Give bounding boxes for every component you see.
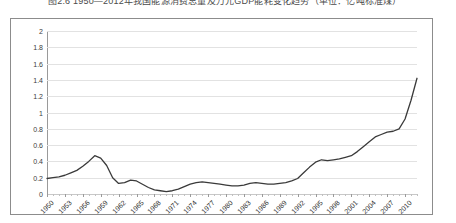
x-tick-minor bbox=[113, 194, 114, 196]
x-tick-minor bbox=[250, 194, 251, 196]
x-tick-label: 2001 bbox=[343, 199, 359, 215]
x-tick-minor bbox=[345, 194, 346, 196]
x-tick-minor bbox=[196, 194, 197, 196]
x-tick-mark bbox=[137, 194, 138, 197]
x-tick-minor bbox=[232, 194, 233, 196]
x-tick-mark bbox=[298, 194, 299, 197]
x-tick-mark bbox=[405, 194, 406, 197]
y-tick-label: 0.6 bbox=[33, 142, 43, 149]
figure-caption-strip: 图2.6 1950—2012年我国能源消费总量及万元GDP能耗变化趋势（单位：亿… bbox=[0, 0, 456, 11]
x-tick-mark bbox=[65, 194, 66, 197]
x-tick-minor bbox=[417, 194, 418, 196]
x-tick-mark bbox=[47, 194, 48, 197]
x-tick-minor bbox=[322, 194, 323, 196]
x-tick-minor bbox=[304, 194, 305, 196]
x-tick-label: 1956 bbox=[75, 199, 91, 215]
x-tick-minor bbox=[381, 194, 382, 196]
x-tick-minor bbox=[339, 194, 340, 196]
x-tick-minor bbox=[256, 194, 257, 196]
x-tick-mark bbox=[208, 194, 209, 197]
x-tick-minor bbox=[393, 194, 394, 196]
y-tick-label: 0.4 bbox=[33, 158, 43, 165]
x-tick-label: 1953 bbox=[57, 199, 73, 215]
y-tick-label: 1 bbox=[39, 109, 43, 116]
x-tick-minor bbox=[238, 194, 239, 196]
x-tick-minor bbox=[184, 194, 185, 196]
x-tick-minor bbox=[310, 194, 311, 196]
x-tick-minor bbox=[89, 194, 90, 196]
x-tick-minor bbox=[286, 194, 287, 196]
x-tick-minor bbox=[148, 194, 149, 196]
x-tick-minor bbox=[59, 194, 60, 196]
x-tick-minor bbox=[166, 194, 167, 196]
x-tick-label: 1989 bbox=[272, 199, 288, 215]
x-tick-label: 1965 bbox=[129, 199, 145, 215]
x-tick-minor bbox=[220, 194, 221, 196]
y-tick-label: 1.4 bbox=[33, 76, 43, 83]
x-tick-minor bbox=[131, 194, 132, 196]
x-tick-mark bbox=[190, 194, 191, 197]
x-tick-mark bbox=[119, 194, 120, 197]
x-tick-mark bbox=[387, 194, 388, 197]
x-tick-label: 2004 bbox=[361, 199, 377, 215]
x-tick-label: 2007 bbox=[379, 199, 395, 215]
x-tick-mark bbox=[83, 194, 84, 197]
x-tick-mark bbox=[172, 194, 173, 197]
x-tick-minor bbox=[274, 194, 275, 196]
x-tick-minor bbox=[363, 194, 364, 196]
x-tick-minor bbox=[53, 194, 54, 196]
x-tick-label: 1977 bbox=[200, 199, 216, 215]
x-tick-mark bbox=[244, 194, 245, 197]
x-tick-mark bbox=[262, 194, 263, 197]
x-tick-label: 1971 bbox=[164, 199, 180, 215]
x-tick-minor bbox=[142, 194, 143, 196]
x-tick-mark bbox=[351, 194, 352, 197]
x-tick-mark bbox=[369, 194, 370, 197]
x-tick-minor bbox=[202, 194, 203, 196]
x-tick-label: 1968 bbox=[146, 199, 162, 215]
x-tick-mark bbox=[101, 194, 102, 197]
plot-area: 00.20.40.60.811.21.41.61.82 195019531956… bbox=[47, 31, 417, 194]
x-tick-label: 1986 bbox=[254, 199, 270, 215]
y-tick-label: 1.8 bbox=[33, 44, 43, 51]
x-tick-mark bbox=[316, 194, 317, 197]
x-tick-label: 1959 bbox=[93, 199, 109, 215]
x-tick-minor bbox=[95, 194, 96, 196]
x-tick-label: 1950 bbox=[39, 199, 55, 215]
x-tick-label: 1983 bbox=[236, 199, 252, 215]
x-tick-minor bbox=[375, 194, 376, 196]
x-tick-minor bbox=[292, 194, 293, 196]
x-tick-mark bbox=[333, 194, 334, 197]
x-tick-label: 1998 bbox=[325, 199, 341, 215]
x-tick-label: 1992 bbox=[290, 199, 306, 215]
x-tick-label: 1980 bbox=[218, 199, 234, 215]
x-tick-minor bbox=[71, 194, 72, 196]
y-tick-label: 2 bbox=[39, 28, 43, 35]
series-polyline bbox=[47, 78, 417, 191]
x-tick-minor bbox=[178, 194, 179, 196]
x-tick-label: 2010 bbox=[397, 199, 413, 215]
x-tick-minor bbox=[77, 194, 78, 196]
y-tick-label: 1.6 bbox=[33, 60, 43, 67]
y-tick-label: 0 bbox=[39, 191, 43, 198]
x-tick-label: 1962 bbox=[111, 199, 127, 215]
x-tick-minor bbox=[357, 194, 358, 196]
x-tick-minor bbox=[327, 194, 328, 196]
x-tick-minor bbox=[214, 194, 215, 196]
x-tick-mark bbox=[280, 194, 281, 197]
x-tick-label: 1974 bbox=[182, 199, 198, 215]
figure-caption: 图2.6 1950—2012年我国能源消费总量及万元GDP能耗变化趋势（单位：亿… bbox=[48, 0, 402, 7]
y-tick-label: 1.2 bbox=[33, 93, 43, 100]
x-tick-minor bbox=[125, 194, 126, 196]
y-tick-label: 0.8 bbox=[33, 125, 43, 132]
x-tick-minor bbox=[107, 194, 108, 196]
x-tick-minor bbox=[268, 194, 269, 196]
x-tick-minor bbox=[399, 194, 400, 196]
x-tick-label: 1995 bbox=[308, 199, 324, 215]
x-tick-mark bbox=[154, 194, 155, 197]
x-tick-mark bbox=[226, 194, 227, 197]
x-tick-minor bbox=[411, 194, 412, 196]
y-tick-label: 0.2 bbox=[33, 174, 43, 181]
x-tick-minor bbox=[160, 194, 161, 196]
line-series bbox=[47, 31, 417, 194]
